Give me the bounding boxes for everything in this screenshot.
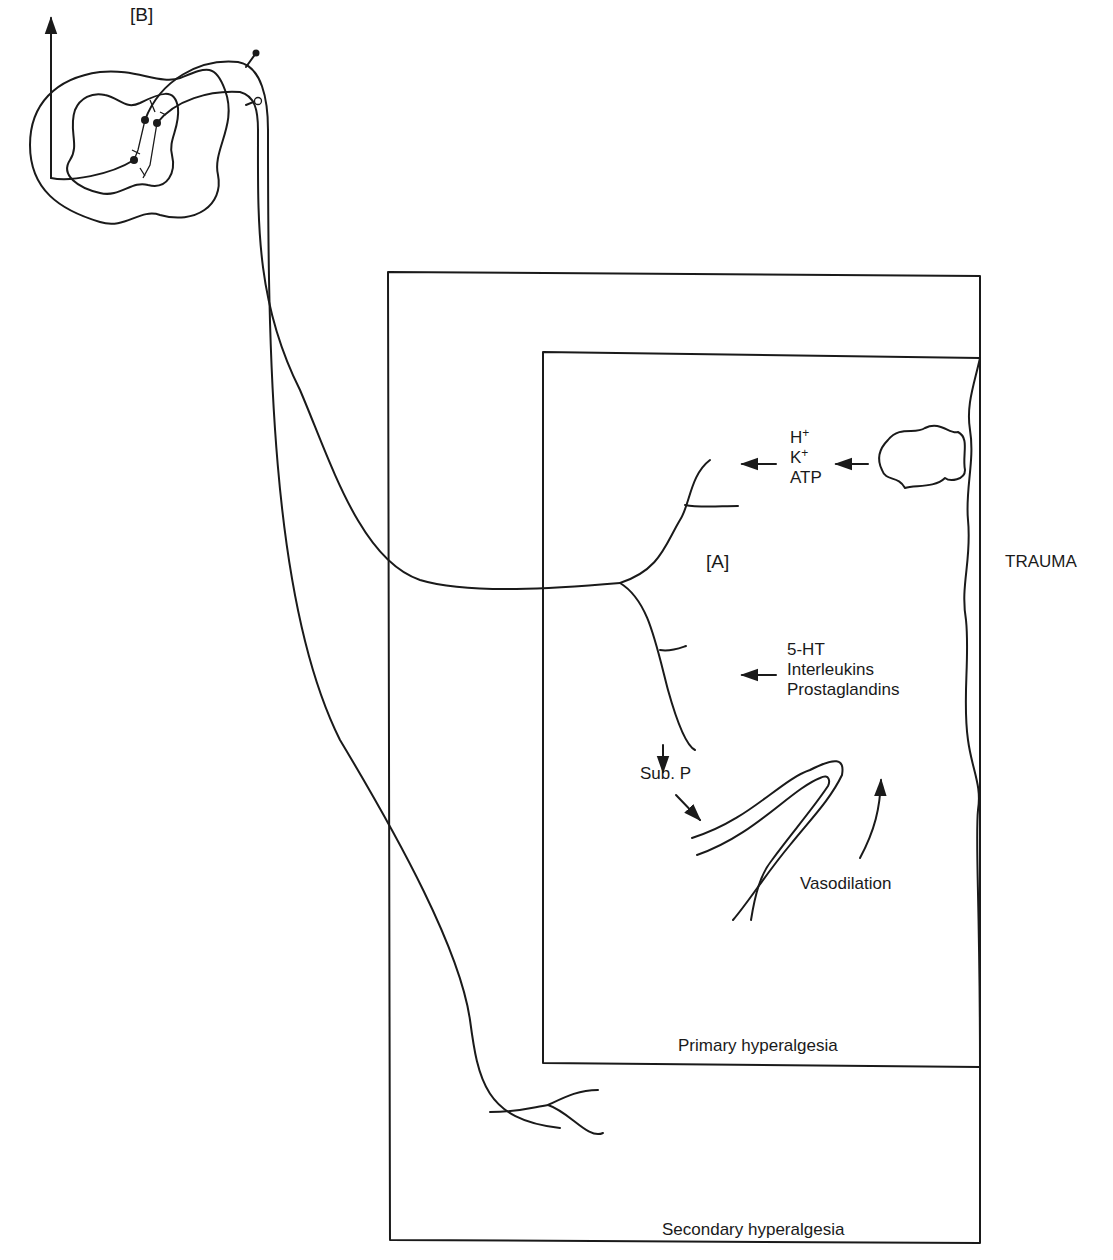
tissue-site-label: [A] [706, 552, 729, 572]
mediator-item: 5-HT [787, 640, 899, 660]
trauma-label: TRAUMA [1005, 552, 1077, 572]
mediators-group: 5-HT Interleukins Prostaglandins [787, 640, 899, 700]
vasodilation-label: Vasodilation [800, 874, 891, 894]
primary-hyperalgesia-box [543, 352, 980, 1067]
trauma-skin-edge [964, 358, 980, 1067]
mediator-item: Interleukins [787, 660, 899, 680]
spinal-cord-icon [30, 18, 268, 224]
primary-hyperalgesia-label: Primary hyperalgesia [678, 1036, 838, 1056]
atp: ATP [790, 468, 822, 488]
secondary-hyperalgesia-label: Secondary hyperalgesia [662, 1220, 844, 1240]
afferent-fiber-primary [258, 130, 620, 589]
arrow-vasodilation [860, 780, 881, 858]
blood-vessel-icon [692, 761, 843, 920]
hyperalgesia-diagram [0, 0, 1113, 1260]
afferent-fiber-secondary [268, 130, 560, 1128]
ion-h: H+ [790, 428, 822, 448]
damaged-tissue-icon [879, 426, 965, 488]
arrow-subp-to-vessel [676, 795, 700, 820]
nerve-ending-upper [620, 460, 710, 583]
mediator-item: Prostaglandins [787, 680, 899, 700]
substance-p-label: Sub. P [640, 764, 691, 784]
nerve-ending-lower [620, 583, 695, 750]
secondary-hyperalgesia-box [388, 272, 980, 1243]
ion-k: K+ [790, 448, 822, 468]
ions-group: H+ K+ ATP [790, 428, 822, 488]
spinal-cord-label: [B] [130, 5, 153, 25]
